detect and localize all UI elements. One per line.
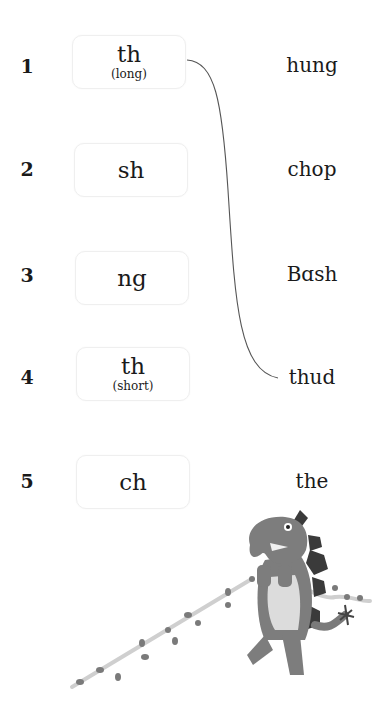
dinosaur-illustration-icon [60,505,380,695]
